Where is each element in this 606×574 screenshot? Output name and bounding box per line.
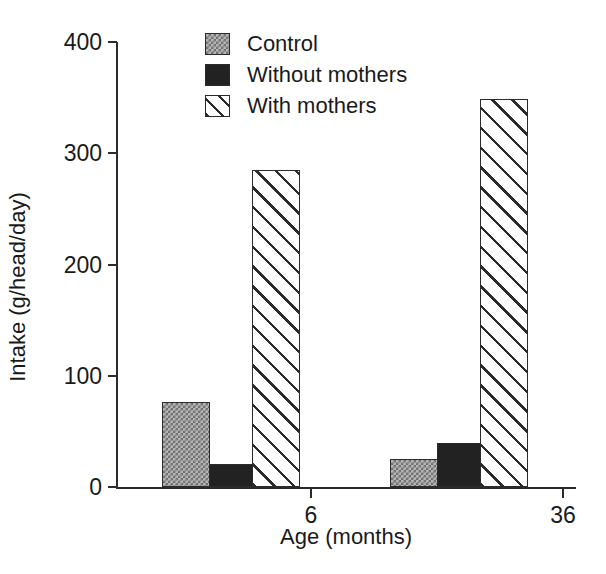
- legend-swatch-icon: [205, 64, 230, 86]
- bar-36-control: [390, 459, 438, 487]
- x-tick-mark-36: [562, 488, 564, 498]
- legend-label: Control: [247, 33, 318, 55]
- x-axis-spine: [116, 487, 576, 489]
- x-tick-label: 36: [550, 504, 576, 527]
- x-tick-mark-6: [310, 488, 312, 498]
- y-tick-mark: 300: [108, 152, 117, 154]
- y-tick-label: 200: [64, 253, 102, 276]
- legend-label: Without mothers: [247, 64, 407, 86]
- bar-6-control: [162, 402, 210, 487]
- legend-swatch-icon: [205, 33, 230, 55]
- legend-item-control: Control: [205, 28, 407, 59]
- y-axis-title: Intake (g/head/day): [5, 192, 31, 382]
- x-tick-label: 6: [305, 504, 318, 527]
- y-tick-mark: 100: [108, 375, 117, 377]
- y-tick-mark: 0: [108, 486, 117, 488]
- legend-item-without-mothers: Without mothers: [205, 59, 407, 90]
- x-axis-title: Age (months): [280, 524, 412, 550]
- y-tick-label: 300: [64, 142, 102, 165]
- bar-36-without-mothers: [437, 443, 481, 488]
- bar-chart-figure: Intake (g/head/day) Age (months) 4003002…: [0, 0, 606, 574]
- chart-legend: ControlWithout mothersWith mothers: [205, 28, 407, 121]
- bar-36-with-mothers: [480, 99, 528, 487]
- y-tick-mark: 200: [108, 264, 117, 266]
- y-tick-label: 400: [64, 31, 102, 54]
- bar-6-with-mothers: [252, 170, 300, 487]
- y-tick-label: 0: [89, 476, 102, 499]
- bar-6-without-mothers: [209, 464, 253, 487]
- y-tick-mark: 400: [108, 41, 117, 43]
- legend-label: With mothers: [247, 95, 377, 117]
- legend-item-with-mothers: With mothers: [205, 90, 407, 121]
- y-tick-label: 100: [64, 364, 102, 387]
- legend-swatch-icon: [205, 95, 230, 117]
